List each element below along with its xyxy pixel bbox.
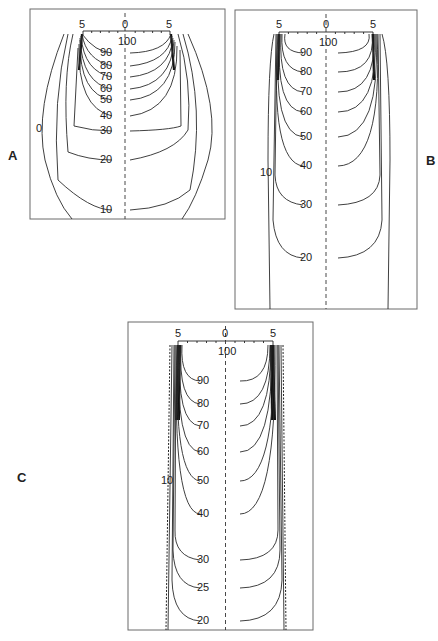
panel-b-label: B [426, 153, 435, 168]
contour-figure: A 5 0 5 100 90 80 70 60 50 40 30 20 [0, 0, 438, 641]
svg-text:5: 5 [370, 18, 376, 30]
side-label: 0 [36, 122, 42, 134]
svg-text:5: 5 [276, 18, 282, 30]
svg-text:40: 40 [300, 159, 312, 171]
svg-text:30: 30 [197, 553, 209, 565]
svg-text:70: 70 [300, 85, 312, 97]
axis-right-tick: 5 [166, 18, 172, 30]
svg-text:70: 70 [197, 419, 209, 431]
svg-text:0: 0 [323, 18, 329, 30]
svg-text:80: 80 [197, 397, 209, 409]
panel-b: B 5 0 5 100 90 80 70 60 50 40 30 20 10 [235, 10, 435, 309]
svg-text:10: 10 [161, 474, 173, 486]
axis-left-tick: 5 [79, 18, 85, 30]
svg-text:60: 60 [197, 445, 209, 457]
svg-text:20: 20 [100, 153, 112, 165]
svg-text:40: 40 [100, 109, 112, 121]
svg-text:10: 10 [100, 203, 112, 215]
svg-text:30: 30 [300, 198, 312, 210]
svg-text:25: 25 [197, 581, 209, 593]
svg-text:50: 50 [300, 130, 312, 142]
svg-text:60: 60 [300, 105, 312, 117]
svg-text:50: 50 [100, 93, 112, 105]
center-value-label: 100 [118, 35, 136, 47]
svg-text:100: 100 [319, 36, 337, 48]
svg-text:40: 40 [197, 507, 209, 519]
svg-text:50: 50 [197, 474, 209, 486]
svg-text:70: 70 [100, 70, 112, 82]
svg-text:0: 0 [222, 327, 228, 339]
svg-text:90: 90 [300, 46, 312, 58]
panel-c: C 5 0 5 100 90 80 70 60 50 40 30 25 20 [17, 322, 313, 630]
svg-text:10: 10 [260, 166, 272, 178]
svg-text:90: 90 [197, 374, 209, 386]
svg-text:100: 100 [218, 345, 236, 357]
svg-text:80: 80 [300, 65, 312, 77]
svg-text:20: 20 [197, 614, 209, 626]
svg-text:5: 5 [175, 327, 181, 339]
panel-a-label: A [8, 148, 18, 163]
svg-text:30: 30 [100, 124, 112, 136]
svg-text:90: 90 [100, 46, 112, 58]
axis-center-tick: 0 [122, 18, 128, 30]
panel-a: A 5 0 5 100 90 80 70 60 50 40 30 20 [8, 9, 225, 219]
svg-text:5: 5 [270, 327, 276, 339]
svg-text:20: 20 [300, 251, 312, 263]
panel-c-label: C [17, 470, 27, 485]
